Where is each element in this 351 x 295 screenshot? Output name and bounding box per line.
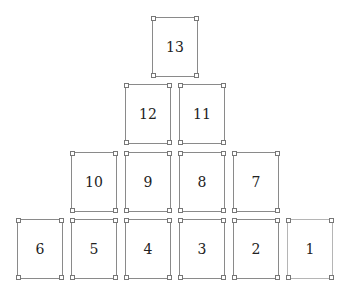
card-label: 12 [139,106,157,122]
card-6: 6 [17,219,63,279]
card-3: 3 [179,219,225,279]
card-4: 4 [125,219,171,279]
card-label: 2 [252,241,261,257]
card-label: 13 [166,39,184,55]
card-5: 5 [71,219,117,279]
card-label: 1 [306,241,315,257]
card-10: 10 [71,152,117,212]
card-label: 3 [198,241,207,257]
card-label: 9 [144,174,153,190]
card-label: 11 [193,106,211,122]
card-label: 6 [36,241,45,257]
card-9: 9 [125,152,171,212]
card-8: 8 [179,152,225,212]
card-label: 5 [90,241,99,257]
card-label: 7 [252,174,261,190]
card-12: 12 [125,84,171,144]
card-1: 1 [287,219,333,279]
card-label: 10 [85,174,103,190]
card-label: 4 [144,241,153,257]
card-13: 13 [152,17,198,77]
card-7: 7 [233,152,279,212]
card-2: 2 [233,219,279,279]
card-label: 8 [198,174,207,190]
card-11: 11 [179,84,225,144]
